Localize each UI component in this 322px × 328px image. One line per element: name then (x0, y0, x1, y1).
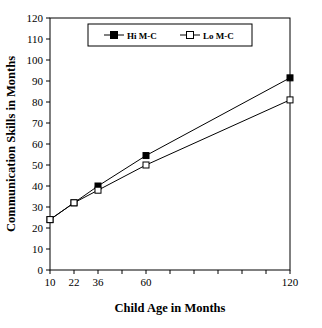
chart-container: 0102030405060708090100110120 10223660120… (0, 0, 322, 328)
x-tick-label: 22 (69, 276, 80, 288)
x-axis-title: Child Age in Months (115, 301, 226, 315)
data-series-group (47, 75, 293, 223)
y-tick-label: 120 (27, 12, 44, 24)
filled-square-marker (287, 75, 293, 81)
filled-square-icon (111, 32, 118, 39)
y-tick-label: 90 (32, 75, 44, 87)
y-tick-label: 0 (38, 264, 44, 276)
y-tick-label: 50 (32, 159, 44, 171)
y-axis-title: Communication Skills in Months (4, 56, 18, 232)
plot-frame (50, 18, 290, 270)
open-square-marker (287, 97, 293, 103)
series-line (50, 100, 290, 220)
legend-entry-lo[interactable]: Lo M-C (180, 31, 234, 41)
line-chart: 0102030405060708090100110120 10223660120… (0, 0, 322, 328)
y-tick-label: 70 (32, 117, 44, 129)
x-tick-label: 60 (141, 276, 153, 288)
series-line (50, 78, 290, 220)
y-axis: 0102030405060708090100110120 (27, 12, 51, 276)
open-square-marker (47, 217, 53, 223)
open-square-marker (143, 162, 149, 168)
open-square-marker (71, 200, 77, 206)
legend-label-lo: Lo M-C (203, 31, 234, 41)
y-tick-label: 20 (32, 222, 44, 234)
x-tick-label: 10 (45, 276, 57, 288)
y-tick-label: 30 (32, 201, 44, 213)
legend-label-hi: Hi M-C (127, 31, 157, 41)
y-tick-label: 40 (32, 180, 44, 192)
y-tick-label: 100 (27, 54, 44, 66)
y-tick-label: 110 (27, 33, 44, 45)
y-tick-label: 10 (32, 243, 44, 255)
chart-legend: Hi M-C Lo M-C (88, 24, 252, 46)
open-square-icon (187, 32, 194, 39)
data-series-hi (47, 75, 293, 223)
open-square-marker (95, 187, 101, 193)
y-tick-label: 80 (32, 96, 44, 108)
x-axis-labels: 10223660120 (45, 276, 299, 288)
filled-square-marker (143, 153, 149, 159)
legend-entry-hi[interactable]: Hi M-C (104, 31, 157, 41)
data-series-lo (47, 97, 293, 223)
x-tick-label: 36 (93, 276, 105, 288)
y-tick-label: 60 (32, 138, 44, 150)
x-tick-label: 120 (282, 276, 299, 288)
x-axis-ticks (50, 270, 290, 274)
